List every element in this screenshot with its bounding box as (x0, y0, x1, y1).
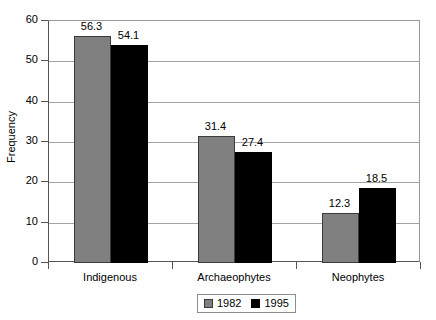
x-axis-tick (48, 262, 49, 269)
y-axis-label-wrap: 50 (0, 54, 38, 65)
bar (111, 45, 148, 263)
y-axis-label: 20 (2, 175, 38, 186)
bar (322, 213, 359, 263)
y-axis-label: 30 (2, 135, 38, 146)
y-axis-tick (41, 222, 48, 223)
x-axis-tick (172, 262, 173, 269)
y-axis-label: 40 (2, 95, 38, 106)
y-axis-tick (41, 181, 48, 182)
y-axis-label: 10 (2, 216, 38, 227)
y-axis-label-wrap: 40 (0, 95, 38, 106)
chart-legend: 19821995 (197, 294, 296, 313)
bar-value-label: 27.4 (228, 137, 277, 148)
y-axis-tick (41, 20, 48, 21)
bar-value-label: 12.3 (315, 198, 364, 209)
bar-value-label: 54.1 (104, 30, 153, 41)
y-axis-label-wrap: 30 (0, 135, 38, 146)
y-axis-label-wrap: 60 (0, 14, 38, 25)
y-axis-tick (41, 262, 48, 263)
bar (198, 136, 235, 263)
y-axis-label-wrap: 20 (0, 175, 38, 186)
x-axis-label: Neophytes (296, 271, 420, 284)
legend-label: 1982 (217, 298, 241, 309)
bar-value-label: 18.5 (352, 173, 401, 184)
bar-value-label: 31.4 (191, 121, 240, 132)
y-axis-label: 50 (2, 54, 38, 65)
legend-item: 1995 (251, 298, 288, 309)
bar (359, 188, 396, 263)
x-axis-label: Archaeophytes (172, 271, 296, 284)
legend-item: 1982 (204, 298, 241, 309)
y-axis-tick (41, 60, 48, 61)
x-axis-tick (296, 262, 297, 269)
bar (235, 152, 272, 263)
y-axis-label: 0 (2, 256, 38, 267)
legend-swatch-icon (204, 299, 213, 308)
legend-label: 1995 (264, 298, 288, 309)
x-axis-tick (420, 262, 421, 269)
y-axis-label-wrap: 10 (0, 216, 38, 227)
y-axis-tick (41, 101, 48, 102)
y-axis-label-wrap: 0 (0, 256, 38, 267)
legend-swatch-icon (251, 299, 260, 308)
x-axis-label: Indigenous (48, 271, 172, 284)
bar-chart: Frequency 0102030405060 56.354.131.427.4… (0, 0, 436, 320)
bar (74, 36, 111, 263)
y-axis-tick (41, 141, 48, 142)
y-axis-label: 60 (2, 14, 38, 25)
